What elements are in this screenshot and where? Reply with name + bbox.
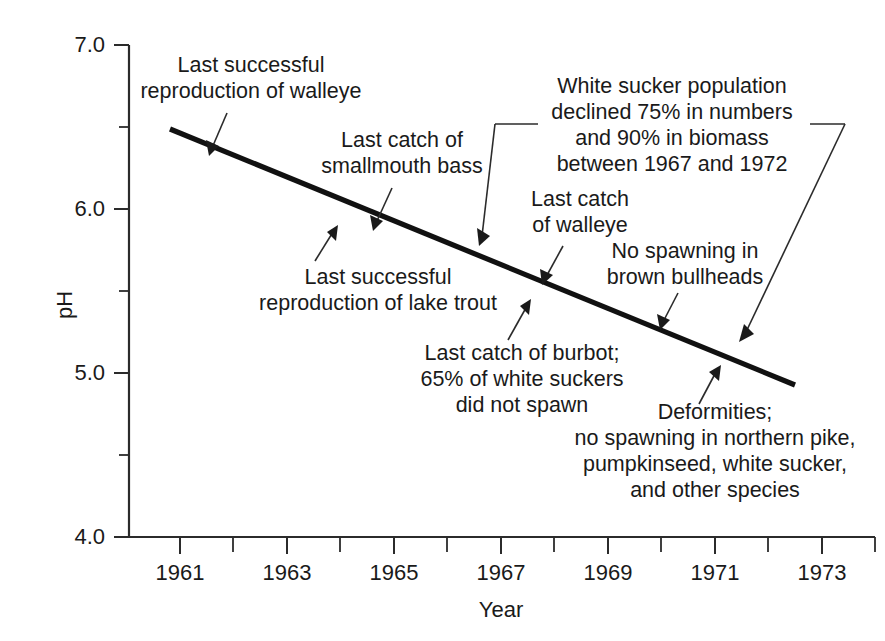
y-tick-label-6-0: 6.0 [60,196,105,222]
x-tick-label-1961: 1961 [156,560,205,586]
y-tick-label-7-0: 7.0 [60,32,105,58]
annotation-brown-bullheads: No spawning in brown bullheads [555,238,815,290]
chart-container: 7.0 6.0 5.0 4.0 1961 1963 1965 1967 1969… [0,0,885,641]
x-axis-title: Year [479,597,523,623]
x-tick-label-1969: 1969 [584,560,633,586]
annotation-walleye-reproduction: Last successful reproduction of walleye [101,52,401,104]
annotation-smallmouth-bass: Last catch of smallmouth bass [272,127,532,179]
annotation-white-sucker-population: White sucker population declined 75% in … [507,73,837,177]
x-tick-label-1967: 1967 [477,560,526,586]
x-tick-label-1971: 1971 [691,560,740,586]
annotation-deformities: Deformities; no spawning in northern pik… [535,399,885,503]
y-tick-label-5-0: 5.0 [60,360,105,386]
leader-lake-trout [315,225,338,261]
x-tick-label-1965: 1965 [370,560,419,586]
y-axis-title: pH [52,291,78,319]
annotation-lake-trout: Last successful reproduction of lake tro… [208,264,548,316]
y-tick-label-4-0: 4.0 [60,524,105,550]
leader-brown-bullheads [657,293,678,330]
annotation-walleye-catch: Last catch of walleye [470,186,690,238]
x-tick-label-1973: 1973 [798,560,847,586]
x-tick-label-1963: 1963 [263,560,312,586]
